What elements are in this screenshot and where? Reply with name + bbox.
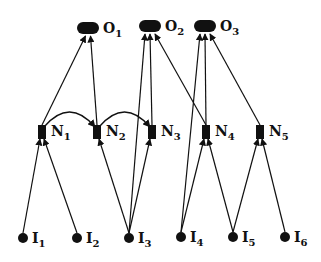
input-node-icon xyxy=(280,232,290,242)
edge-n2-o1 xyxy=(91,36,98,125)
nodes-layer: O1O2O3N1N2N3N4N5I1I2I3I4I5I6 xyxy=(18,18,308,249)
hidden-node-icon xyxy=(256,125,264,139)
edge-i5-n5 xyxy=(233,139,258,232)
output-node-icon xyxy=(194,20,216,32)
label-i3: I3 xyxy=(138,230,152,249)
hidden-node-icon xyxy=(148,125,156,139)
edge-i3-o2 xyxy=(129,34,145,233)
label-n5: N5 xyxy=(269,123,289,142)
node-n3: N3 xyxy=(148,123,181,142)
edge-i5-n4 xyxy=(208,139,233,232)
output-node-icon xyxy=(139,20,161,32)
node-i2: I2 xyxy=(72,230,100,249)
input-node-icon xyxy=(72,233,82,243)
edge-i2-n1 xyxy=(44,139,77,233)
label-o3: O3 xyxy=(220,18,239,37)
edge-i3-n3 xyxy=(129,139,150,233)
edge-n4-o3 xyxy=(205,34,206,125)
edge-i4-n4 xyxy=(181,139,204,232)
label-i4: I4 xyxy=(190,229,204,248)
node-n1: N1 xyxy=(38,123,71,142)
edge-i3-n2 xyxy=(99,139,129,233)
node-o2: O2 xyxy=(139,18,184,37)
label-i5: I5 xyxy=(242,229,256,248)
node-i3: I3 xyxy=(124,230,152,249)
node-n2: N2 xyxy=(93,123,126,142)
label-i1: I1 xyxy=(32,230,46,249)
node-n5: N5 xyxy=(256,123,289,142)
label-n3: N3 xyxy=(161,123,181,142)
edge-n1-o1 xyxy=(42,36,86,125)
label-o2: O2 xyxy=(165,18,184,37)
edge-n3-o2 xyxy=(150,34,152,125)
label-n4: N4 xyxy=(215,123,235,142)
label-i6: I6 xyxy=(294,229,308,248)
edge-i4-o3 xyxy=(181,34,200,232)
edge-i1-n1 xyxy=(23,139,40,233)
hidden-node-icon xyxy=(93,125,101,139)
input-node-icon xyxy=(18,233,28,243)
input-node-icon xyxy=(124,233,134,243)
node-i6: I6 xyxy=(280,229,308,248)
node-i4: I4 xyxy=(176,229,204,248)
input-node-icon xyxy=(176,232,186,242)
network-diagram: O1O2O3N1N2N3N4N5I1I2I3I4I5I6 xyxy=(0,0,321,262)
label-i2: I2 xyxy=(86,230,100,249)
label-n2: N2 xyxy=(106,123,126,142)
edge-i6-n5 xyxy=(262,139,285,232)
hidden-node-icon xyxy=(202,125,210,139)
node-o1: O1 xyxy=(77,20,122,39)
output-node-icon xyxy=(77,22,99,34)
node-o3: O3 xyxy=(194,18,239,37)
node-n4: N4 xyxy=(202,123,235,142)
label-n1: N1 xyxy=(51,123,71,142)
node-i5: I5 xyxy=(228,229,256,248)
node-i1: I1 xyxy=(18,230,46,249)
label-o1: O1 xyxy=(103,20,122,39)
input-node-icon xyxy=(228,232,238,242)
edge-n5-o3 xyxy=(210,34,260,125)
hidden-node-icon xyxy=(38,125,46,139)
